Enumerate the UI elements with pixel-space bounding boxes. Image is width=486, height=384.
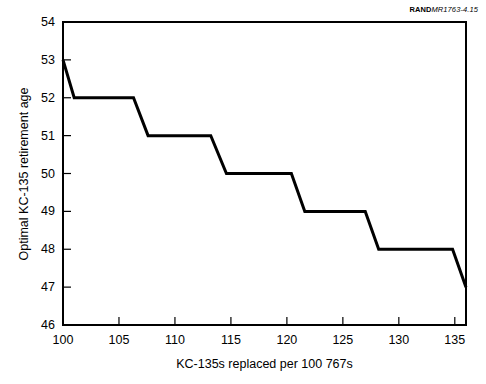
x-tick-label: 115 [211, 334, 251, 346]
y-tick-label: 48 [27, 243, 55, 255]
y-tick-label: 53 [27, 54, 55, 66]
x-tick-label: 120 [267, 334, 307, 346]
y-tick-label: 52 [27, 92, 55, 104]
x-tick-label: 110 [155, 334, 195, 346]
y-tick-label: 51 [27, 130, 55, 142]
y-axis-title: Optimal KC-135 retirement age [17, 54, 31, 294]
y-tick-label: 50 [27, 168, 55, 180]
y-tick-label: 46 [27, 319, 55, 331]
x-tick-label: 105 [99, 334, 139, 346]
x-tick-label: 100 [43, 334, 83, 346]
y-tick-label: 49 [27, 205, 55, 217]
x-tick-label: 135 [435, 334, 475, 346]
y-tick-label: 47 [27, 281, 55, 293]
y-tick-label: 54 [27, 16, 55, 28]
step-line-chart [0, 0, 486, 384]
x-tick-label: 130 [379, 334, 419, 346]
x-axis-title: KC-135s replaced per 100 767s [63, 357, 466, 371]
chart-plot-area: 464748495051525354 100105110115120125130… [0, 0, 486, 384]
x-tick-label: 125 [323, 334, 363, 346]
